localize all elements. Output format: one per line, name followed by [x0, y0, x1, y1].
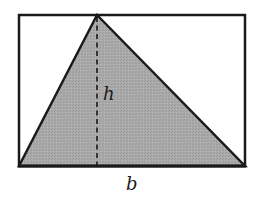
base-label: b	[126, 173, 138, 194]
triangle-area-diagram: h b	[0, 0, 256, 199]
height-label: h	[103, 83, 115, 104]
